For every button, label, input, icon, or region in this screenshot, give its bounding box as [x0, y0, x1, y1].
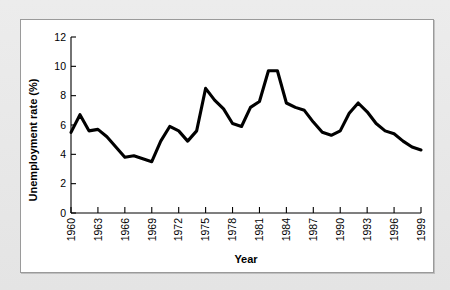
x-tick-label: 1960	[65, 218, 77, 242]
x-tick-label: 1975	[199, 218, 211, 242]
series-line-unemployment-rate	[71, 71, 421, 162]
y-tick-label: 0	[60, 207, 66, 219]
y-tick-label: 10	[54, 60, 66, 72]
y-tick-label: 8	[60, 89, 66, 101]
page-background: 024681012 196019631966196919721975197819…	[0, 0, 450, 290]
unemployment-rate-line-chart: 024681012 196019631966196919721975197819…	[21, 20, 433, 272]
x-tick-label: 1963	[92, 218, 104, 242]
x-tick-label: 1999	[415, 218, 427, 242]
y-tick-label: 12	[54, 31, 66, 43]
x-axis-title: Year	[234, 253, 258, 265]
x-tick-label: 1981	[253, 218, 265, 242]
y-tick-label: 2	[60, 177, 66, 189]
x-tick-label: 1987	[307, 218, 319, 242]
x-axis: 1960196319661969197219751978198119841987…	[65, 207, 427, 241]
x-tick-label: 1972	[172, 218, 184, 242]
x-tick-label: 1993	[361, 218, 373, 242]
x-tick-label: 1984	[280, 218, 292, 242]
y-tick-label: 6	[60, 119, 66, 131]
x-tick-label: 1978	[226, 218, 238, 242]
y-tick-label: 4	[60, 148, 66, 160]
x-tick-label: 1966	[119, 218, 131, 242]
x-tick-label: 1990	[334, 218, 346, 242]
y-axis: 024681012	[54, 31, 76, 219]
chart-panel: 024681012 196019631966196919721975197819…	[20, 19, 434, 273]
y-axis-title: Unemployment rate (%)	[27, 78, 39, 201]
x-tick-label: 1996	[388, 218, 400, 242]
x-tick-label: 1969	[146, 218, 158, 242]
